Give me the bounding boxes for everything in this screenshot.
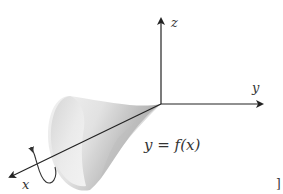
surface-of-revolution-diagram: z y x y = f(x) ] <box>0 0 283 194</box>
z-axis-label: z <box>170 15 178 30</box>
x-axis-label: x <box>22 177 30 192</box>
corner-mark: ] <box>276 177 281 191</box>
curve-equation-label: y = f(x) <box>143 136 200 154</box>
y-axis-label: y <box>251 80 260 95</box>
